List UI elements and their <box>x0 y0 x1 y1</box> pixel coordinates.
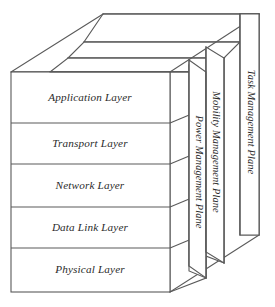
layer-label-physical: Physical Layer <box>54 263 125 275</box>
layer-label-transport: Transport Layer <box>52 137 128 149</box>
layer-label-network: Network Layer <box>55 179 125 191</box>
protocol-stack-diagram: Application Layer Transport Layer Networ… <box>0 0 275 307</box>
layer-label-datalink: Data Link Layer <box>51 221 129 233</box>
diagram-canvas: Application Layer Transport Layer Networ… <box>0 0 275 307</box>
task-plane-top-face <box>84 14 259 42</box>
layer-label-application: Application Layer <box>47 91 132 103</box>
plane-label-power-management: Power Management Plane <box>194 114 205 228</box>
plane-label-mobility-management: Mobility Management Plane <box>211 90 222 213</box>
plane-label-task-management: Task Management Plane <box>246 70 257 175</box>
